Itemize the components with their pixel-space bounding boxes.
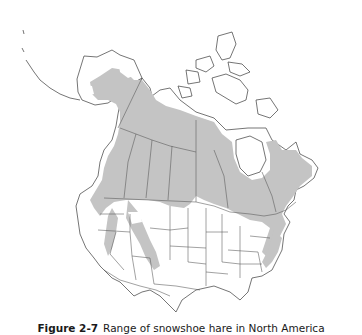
figure-label: Figure 2-7 [37, 322, 98, 334]
figure-caption-text: Range of snowshoe hare in North America [103, 322, 324, 334]
range-map [0, 0, 362, 320]
figure-caption: Figure 2-7Range of snowshoe hare in Nort… [0, 322, 362, 335]
